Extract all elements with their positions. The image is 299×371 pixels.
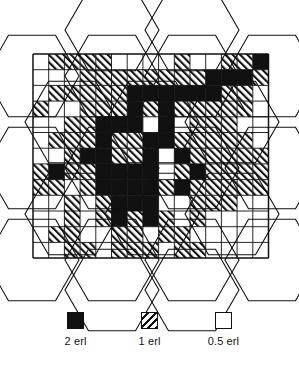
hatched-swatch: [141, 312, 158, 329]
legend-label-1erl: 1 erl: [139, 335, 161, 348]
hexagon-cell: [225, 35, 299, 116]
hexagon-cells: [0, 0, 299, 331]
hexagon-cell: [0, 219, 79, 300]
white-swatch: [215, 312, 232, 329]
legend-item-0.5erl: 0.5 erl: [194, 312, 254, 348]
legend: 2 erl 1 erl 0.5 erl: [0, 312, 299, 348]
hexagon-cell: [0, 35, 79, 116]
hexagon-cell: [225, 219, 299, 300]
legend-label-0.5erl: 0.5 erl: [208, 335, 239, 348]
hexagon-cell: [0, 127, 79, 208]
traffic-demand-figure: 2 erl 1 erl 0.5 erl: [0, 0, 299, 371]
solid-black-swatch: [67, 312, 84, 329]
legend-item-1erl: 1 erl: [120, 312, 180, 348]
legend-label-2erl: 2 erl: [65, 335, 87, 348]
hexagon-cell: [225, 127, 299, 208]
legend-item-2erl: 2 erl: [46, 312, 106, 348]
